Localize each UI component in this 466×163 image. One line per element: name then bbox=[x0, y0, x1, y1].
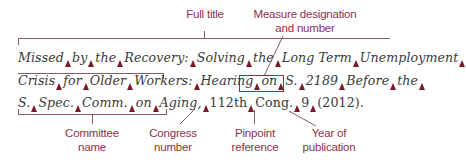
space-marker-icon bbox=[127, 83, 133, 90]
space-marker-icon bbox=[88, 60, 94, 67]
space-marker-icon bbox=[153, 105, 159, 112]
citation-line-3: S.Spec.Comm.onAging,112thCong.9(2012). bbox=[18, 95, 364, 112]
word: by bbox=[72, 50, 87, 65]
word: Comm. bbox=[82, 95, 128, 110]
space-marker-icon bbox=[254, 83, 260, 90]
label-text: Congress bbox=[143, 126, 203, 140]
word: Workers: bbox=[134, 73, 192, 88]
word: Missed bbox=[18, 50, 64, 65]
space-marker-icon bbox=[246, 60, 252, 67]
word: Solving bbox=[197, 50, 245, 65]
word: 9 bbox=[301, 95, 309, 110]
label-text: publication bbox=[296, 140, 362, 154]
word: 112th bbox=[210, 95, 248, 110]
word: on bbox=[136, 95, 152, 110]
word: 2189 bbox=[306, 73, 338, 88]
space-marker-icon bbox=[339, 83, 345, 90]
space-marker-icon bbox=[203, 105, 209, 112]
label-year-of-publication: Year of publication bbox=[296, 126, 362, 154]
word: S. bbox=[18, 95, 30, 110]
label-text: Pinpoint bbox=[224, 126, 286, 140]
word: the bbox=[95, 50, 116, 65]
space-marker-icon bbox=[294, 105, 300, 112]
space-marker-icon bbox=[353, 60, 359, 67]
word: Recovery: bbox=[124, 50, 188, 65]
word: Unemployment bbox=[360, 50, 459, 65]
space-marker-icon bbox=[419, 83, 425, 90]
label-pinpoint-reference: Pinpoint reference bbox=[224, 126, 286, 154]
space-marker-icon bbox=[83, 83, 89, 90]
word: the bbox=[253, 50, 274, 65]
label-committee-name: Committee name bbox=[57, 126, 127, 154]
word: Long Term bbox=[282, 50, 352, 65]
space-marker-icon bbox=[299, 83, 305, 90]
space-marker-icon bbox=[459, 60, 465, 67]
space-marker-icon bbox=[56, 83, 62, 90]
space-marker-icon bbox=[190, 60, 196, 67]
space-marker-icon bbox=[75, 105, 81, 112]
word: Before bbox=[346, 73, 389, 88]
word: Cong. bbox=[255, 95, 293, 110]
space-marker-icon bbox=[278, 83, 284, 90]
space-marker-icon bbox=[194, 83, 200, 90]
label-congress-number: Congress number bbox=[143, 126, 203, 154]
word: S. bbox=[285, 73, 297, 88]
word: Older bbox=[90, 73, 126, 88]
word: the bbox=[397, 73, 418, 88]
space-marker-icon bbox=[129, 105, 135, 112]
space-marker-icon bbox=[248, 105, 254, 112]
word: Aging, bbox=[160, 95, 202, 110]
word: Hearing bbox=[201, 73, 254, 88]
space-marker-icon bbox=[65, 60, 71, 67]
word: Crisis bbox=[18, 73, 55, 88]
word: (2012). bbox=[317, 95, 364, 110]
word: on bbox=[261, 73, 277, 88]
word: for bbox=[63, 73, 82, 88]
label-text: number bbox=[143, 140, 203, 154]
label-text: name bbox=[57, 140, 127, 154]
label-text: Committee bbox=[57, 126, 127, 140]
citation-line-1: MissedbytheRecovery:SolvingtheLong TermU… bbox=[18, 50, 466, 67]
space-marker-icon bbox=[310, 105, 316, 112]
citation-line-2: CrisisforOlderWorkers:HearingonS.2189Bef… bbox=[18, 73, 426, 90]
space-marker-icon bbox=[275, 60, 281, 67]
space-marker-icon bbox=[390, 83, 396, 90]
word: Spec. bbox=[38, 95, 74, 110]
space-marker-icon bbox=[31, 105, 37, 112]
label-text: reference bbox=[224, 140, 286, 154]
label-text: Year of bbox=[296, 126, 362, 140]
space-marker-icon bbox=[117, 60, 123, 67]
